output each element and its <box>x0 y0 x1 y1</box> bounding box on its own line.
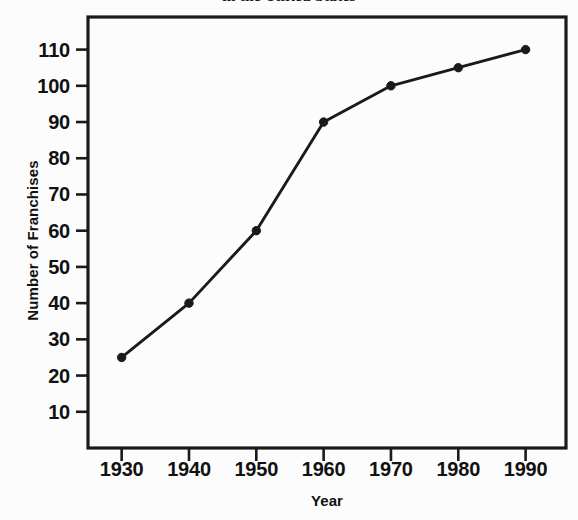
y-axis-ticks <box>76 50 88 412</box>
data-line <box>122 50 526 358</box>
data-markers <box>117 45 529 361</box>
chart-figure: in the United States Number of Franchise… <box>0 0 578 520</box>
plot-frame <box>88 17 566 448</box>
x-axis-ticks <box>122 448 526 461</box>
plot-area <box>0 0 578 520</box>
